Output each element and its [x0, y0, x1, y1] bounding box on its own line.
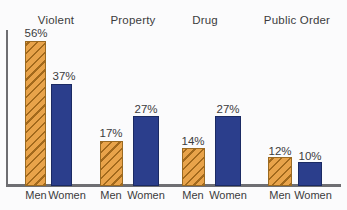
group-title-violent: Violent: [16, 14, 96, 26]
bar-chart: Violent Property Drug Public Order 56% 3…: [0, 0, 347, 210]
value-label-drug-men: 14%: [171, 135, 215, 147]
bar-property-men: [100, 141, 123, 186]
bar-property-women: [133, 116, 159, 186]
y-axis-line: [6, 30, 8, 186]
bar-public-order-women: [298, 162, 322, 186]
value-label-violent-women: 37%: [42, 70, 86, 82]
bar-drug-men: [182, 148, 205, 186]
value-label-drug-women: 27%: [206, 103, 250, 115]
group-title-drug: Drug: [165, 14, 245, 26]
value-label-public-order-women: 10%: [288, 150, 332, 162]
tick-label-drug-women: Women: [205, 189, 251, 201]
tick-label-public-order-women: Women: [290, 189, 336, 201]
group-title-property: Property: [93, 14, 173, 26]
value-label-property-men: 17%: [89, 127, 133, 139]
bar-drug-women: [215, 116, 241, 186]
value-label-violent-men: 56%: [14, 27, 58, 39]
tick-label-violent-women: Women: [44, 189, 90, 201]
value-label-property-women: 27%: [124, 103, 168, 115]
bar-violent-men: [25, 41, 46, 186]
tick-label-property-women: Women: [123, 189, 169, 201]
group-title-public-order: Public Order: [252, 14, 342, 26]
bar-violent-women: [51, 84, 72, 186]
